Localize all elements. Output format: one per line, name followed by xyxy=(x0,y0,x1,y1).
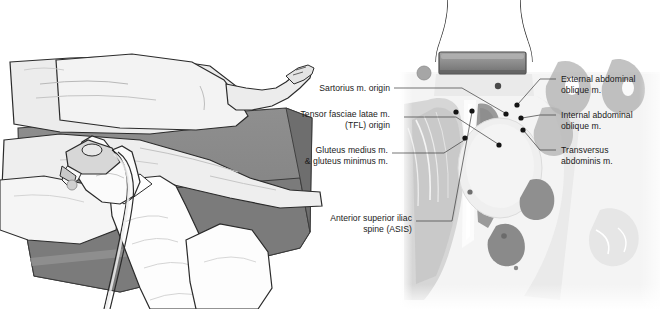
skin-orientation-dot xyxy=(67,180,77,190)
label-sartorius-origin: Sartorius m. origin xyxy=(319,83,390,93)
marker-dot-transversus-abdominis xyxy=(520,127,525,132)
label-gluteus-medius-minimus-line2: & gluteus minimus m. xyxy=(305,156,388,166)
marker-dot-external-oblique xyxy=(514,102,519,107)
transducer-footprint xyxy=(439,52,526,74)
label-anterior-superior-iliac-spine: Anterior superior iliac xyxy=(330,213,413,223)
marker-dot-gluteus-2 xyxy=(453,109,458,114)
label-internal-abdominal-oblique: Internal abdominal xyxy=(561,110,633,120)
marker-dot-sartorius xyxy=(503,111,508,116)
figure-svg: Sartorius m. origin Tensor fasciae latae… xyxy=(0,0,660,309)
label-anterior-superior-iliac-spine-line2: spine (ASIS) xyxy=(363,224,412,234)
label-transversus-abdominis-line2: abdominis m. xyxy=(561,156,613,166)
label-tensor-fasciae-latae-origin-line2: (TFL) origin xyxy=(345,120,390,130)
label-transversus-abdominis: Transversus xyxy=(561,145,609,155)
marker-dot-internal-oblique xyxy=(518,115,523,120)
label-tensor-fasciae-latae-origin: Tensor fasciae latae m. xyxy=(300,109,390,119)
anatomical-cross-section xyxy=(400,0,660,309)
transducer-orientation-marker xyxy=(417,66,431,80)
label-external-abdominal-oblique-line2: oblique m. xyxy=(561,85,601,95)
label-internal-abdominal-oblique-line2: oblique m. xyxy=(561,121,601,131)
label-gluteus-medius-minimus: Gluteus medius m. xyxy=(316,145,389,155)
figure-container: Sartorius m. origin Tensor fasciae latae… xyxy=(0,0,660,309)
marker-dot-tfl xyxy=(496,142,501,147)
label-external-abdominal-oblique: External abdominal xyxy=(561,74,636,84)
marker-dot-asis xyxy=(469,108,474,113)
